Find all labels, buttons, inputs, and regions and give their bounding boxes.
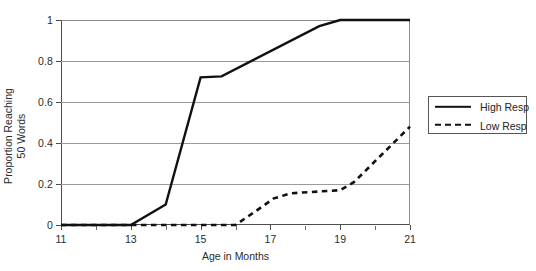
chart-figure: Proportion Reaching 50 Words 00.20.40.60… — [0, 0, 536, 271]
x-axis-minor-tick — [96, 226, 97, 230]
solid-line-swatch — [435, 102, 471, 112]
x-axis-minor-tick — [375, 226, 376, 230]
y-axis-tick-label: 0.6 — [38, 96, 53, 108]
x-axis-tick — [340, 225, 341, 230]
y-axis-tick-label: 0 — [47, 219, 53, 231]
x-axis-tick — [410, 225, 411, 230]
dashed-line-swatch — [435, 121, 471, 131]
x-axis-tick-label: 19 — [334, 233, 346, 245]
legend-item-low-resp: Low Resp — [429, 116, 526, 135]
x-axis-title: Age in Months — [61, 250, 410, 262]
y-axis-tick-label: 1 — [47, 14, 53, 26]
x-axis-tick-label: 11 — [56, 233, 67, 245]
series-line-high-resp — [61, 20, 410, 225]
x-axis-tick-label: 15 — [195, 233, 207, 245]
x-axis-tick-label: 17 — [265, 233, 277, 245]
series-line-low-resp — [61, 127, 410, 225]
x-axis-minor-tick — [236, 226, 237, 230]
legend-item-high-resp: High Resp — [429, 97, 526, 116]
legend-item-label: High Resp — [480, 101, 529, 113]
y-axis-title: Proportion Reaching 50 Words — [2, 71, 27, 201]
series-lines — [61, 20, 410, 225]
x-axis-tick — [270, 225, 271, 230]
y-axis-tick-label: 0.4 — [38, 137, 53, 149]
x-axis-minor-tick — [305, 226, 306, 230]
plot-area: 00.20.40.60.81 111315171921 — [61, 20, 410, 225]
y-axis-tick-label: 0.2 — [38, 178, 53, 190]
legend: High Resp Low Resp — [428, 96, 527, 134]
x-axis-tick-label: 21 — [404, 233, 416, 245]
legend-item-label: Low Resp — [480, 120, 527, 132]
y-axis-tick-label: 0.8 — [38, 55, 53, 67]
x-axis-tick-label: 13 — [125, 233, 137, 245]
x-axis-minor-tick — [166, 226, 167, 230]
